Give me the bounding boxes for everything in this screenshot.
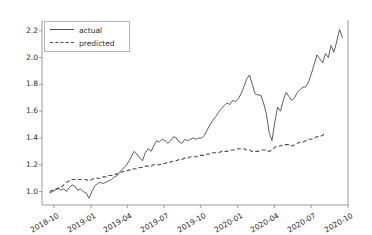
chart-figure: 1.01.21.41.61.82.02.2 2018-102019-012019… [0, 0, 372, 235]
series-line-actual [50, 29, 343, 198]
y-tick-label: 1.2 [10, 160, 38, 169]
y-tick-label: 1.8 [10, 79, 38, 88]
chart-legend: actual predicted [44, 21, 130, 52]
y-tick-label: 2.2 [10, 26, 38, 35]
legend-entry-predicted: predicted [50, 37, 115, 49]
legend-label-actual: actual [79, 26, 102, 35]
y-tick-label: 1.6 [10, 106, 38, 115]
legend-line-dashed-icon [50, 39, 74, 47]
legend-label-predicted: predicted [79, 39, 115, 48]
series-line-predicted [50, 133, 326, 192]
y-tick-label: 2.0 [10, 53, 38, 62]
legend-entry-actual: actual [50, 24, 102, 36]
y-tick-label: 1.4 [10, 133, 38, 142]
y-tick-label: 1.0 [10, 187, 38, 196]
legend-line-solid-icon [50, 26, 74, 34]
